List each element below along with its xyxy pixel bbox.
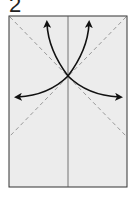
fold-diagram	[0, 0, 133, 197]
